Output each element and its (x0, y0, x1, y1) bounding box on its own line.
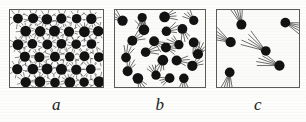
panel-c-gas (216, 9, 300, 88)
panel-a-solid (9, 9, 104, 88)
states-of-matter-figure: a b c (0, 0, 306, 122)
panel-c-caption: c (216, 90, 300, 120)
panel-c-particles (217, 10, 299, 87)
panel-b-particles (115, 10, 205, 87)
panel-a-particles (10, 10, 103, 87)
panel-b-caption: b (114, 90, 206, 120)
panel-a-caption: a (9, 90, 104, 120)
panel-b-liquid (114, 9, 206, 88)
